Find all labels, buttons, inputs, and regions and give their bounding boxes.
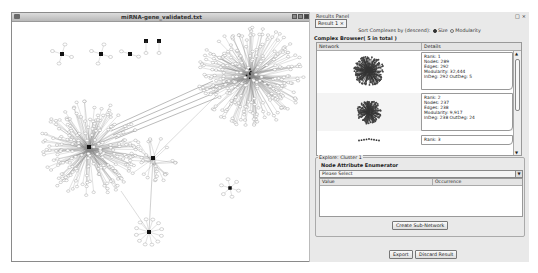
column-occurrence[interactable]: Occurrence xyxy=(433,179,522,185)
scrollbar-thumb[interactable] xyxy=(515,59,520,111)
scroll-down-icon[interactable]: ▼ xyxy=(515,150,518,155)
complex-details-1: Rank: 1 Nodes: 289 Edges: 292 Modularity… xyxy=(421,52,513,90)
scroll-up-icon[interactable]: ▲ xyxy=(515,51,518,56)
explore-cluster-group: Explore: Cluster 1 Node Attribute Enumer… xyxy=(315,157,525,237)
node-attribute-enumerator-title: Node Attribute Enumerator xyxy=(321,162,398,168)
sort-modularity-label: Modularity xyxy=(455,28,480,33)
attribute-select-value: Please Select xyxy=(322,171,353,176)
sort-label: Sort Complexes by (descend): xyxy=(358,28,430,33)
complex-thumbnail-2 xyxy=(317,93,421,131)
close-panel-icon[interactable]: × xyxy=(522,13,526,19)
complex-details-3: Rank: 3 xyxy=(421,135,513,145)
network-view-window: miRNA-gene_validated.txt xyxy=(11,12,312,262)
sort-size-label: Size xyxy=(438,28,448,33)
complex-details-2: Rank: 2 Nodes: 237 Edges: 238 Modularity… xyxy=(421,93,513,131)
complex-browser-scrollbar[interactable]: ▲ ▼ xyxy=(513,51,521,155)
discard-result-button[interactable]: Discard Result xyxy=(415,250,457,259)
create-sub-network-button[interactable]: Create Sub-Network xyxy=(392,221,448,230)
minimize-button[interactable] xyxy=(292,14,297,19)
complex-row-2[interactable]: Rank: 2 Nodes: 237 Edges: 238 Modularity… xyxy=(317,93,513,131)
column-value[interactable]: Value xyxy=(320,179,433,185)
complex-thumbnail-1 xyxy=(317,52,421,90)
complex-row-3[interactable]: Rank: 3 xyxy=(317,135,513,153)
attribute-table: Value Occurrence xyxy=(319,178,523,217)
complex-row-1[interactable]: Rank: 1 Nodes: 289 Edges: 292 Modularity… xyxy=(317,52,513,90)
degree-text: InDeg: 238 OutDeg: 24 xyxy=(424,115,510,120)
sort-modularity-radio[interactable] xyxy=(450,29,454,33)
complex-browser-table: Network Details Rank: 1 Nodes: 289 Edges… xyxy=(316,42,522,156)
chevron-down-icon[interactable]: ▼ xyxy=(515,171,522,177)
network-graph-canvas[interactable] xyxy=(12,22,311,262)
explore-label: Explore: Cluster 1 xyxy=(318,155,363,160)
export-button[interactable]: Export xyxy=(389,250,413,259)
degree-text: InDeg: 292 OutDeg: 5 xyxy=(424,74,510,79)
rank-text: Rank: 3 xyxy=(424,137,510,142)
float-panel-icon[interactable]: □ xyxy=(515,13,520,19)
complex-browser-title: Complex Browser( 5 in total ) xyxy=(314,35,397,41)
network-title: miRNA-gene_validated.txt xyxy=(12,14,311,20)
column-details[interactable]: Details xyxy=(422,43,521,50)
network-window-titlebar[interactable]: miRNA-gene_validated.txt xyxy=(12,13,311,22)
column-network[interactable]: Network xyxy=(317,43,422,50)
results-panel: Results Panel □ × Result 1 × Sort Comple… xyxy=(309,12,529,262)
complex-thumbnail-3 xyxy=(317,135,421,153)
sort-row: Sort Complexes by (descend): Size Modula… xyxy=(310,28,529,33)
attribute-select[interactable]: Please Select ▼ xyxy=(319,170,523,178)
tab-result-1[interactable]: Result 1 × xyxy=(315,19,347,28)
sort-size-radio[interactable] xyxy=(433,29,437,33)
maximize-button[interactable] xyxy=(298,14,303,19)
